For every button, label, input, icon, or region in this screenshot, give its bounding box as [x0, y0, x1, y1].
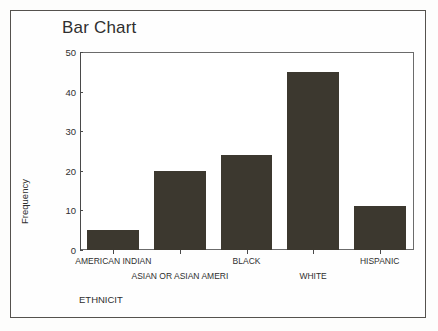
x-tick-mark — [113, 250, 114, 254]
bar[interactable] — [221, 155, 273, 250]
x-category-label: WHITE — [299, 271, 326, 281]
y-tick-label: 50 — [65, 47, 76, 58]
bar[interactable] — [154, 171, 206, 250]
y-tick-label: 10 — [65, 205, 76, 216]
y-tick-mark — [80, 250, 83, 251]
x-axis-title: ETHNICIT — [79, 294, 123, 305]
y-tick-mark — [80, 210, 83, 211]
y-tick-mark — [80, 92, 83, 93]
bar[interactable] — [287, 72, 339, 250]
y-axis-tick-labels: 01020304050 — [52, 0, 76, 331]
y-axis-title: Frequency — [19, 167, 30, 237]
x-category-label: ASIAN OR ASIAN AMERI — [131, 271, 228, 281]
x-category-label: BLACK — [233, 256, 261, 266]
y-tick-label: 30 — [65, 126, 76, 137]
bar[interactable] — [354, 206, 406, 250]
x-tick-mark — [180, 250, 181, 254]
y-tick-mark — [80, 171, 83, 172]
x-category-label: AMERICAN INDIAN — [75, 256, 151, 266]
y-tick-mark — [80, 131, 83, 132]
x-tick-mark — [380, 250, 381, 254]
bar[interactable] — [87, 230, 139, 250]
x-tick-mark — [313, 250, 314, 254]
x-tick-mark — [247, 250, 248, 254]
bars-layer — [80, 52, 413, 250]
y-tick-mark — [80, 52, 83, 53]
y-tick-label: 40 — [65, 86, 76, 97]
bar-chart-window: Bar Chart 01020304050 Frequency AMERICAN… — [0, 0, 438, 331]
x-category-label: HISPANIC — [360, 256, 400, 266]
y-tick-label: 20 — [65, 165, 76, 176]
y-tick-label: 0 — [71, 245, 76, 256]
